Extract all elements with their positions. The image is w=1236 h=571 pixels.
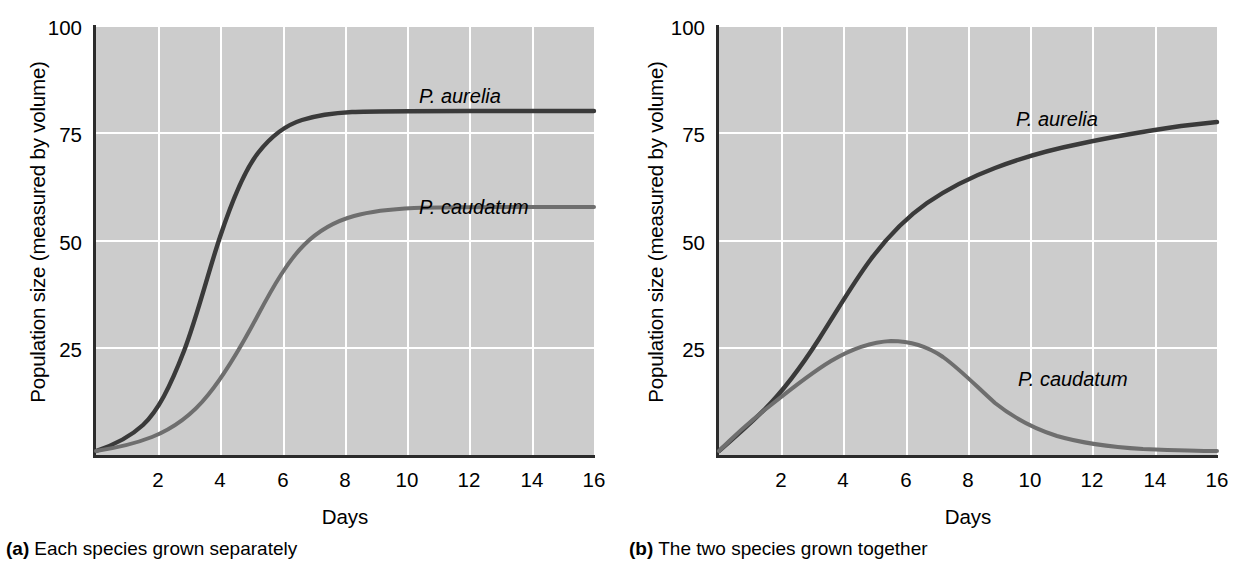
figure-competitive-exclusion: Population size (measured by volume) 100 <box>0 0 1236 571</box>
x-tick-2-a: 2 <box>138 470 178 491</box>
x-axis-line-b <box>716 455 1218 458</box>
curve-caudatum-b <box>719 341 1217 451</box>
caption-a-prefix: (a) <box>6 538 29 559</box>
y-axis-label-a: Population size (measured by volume) <box>26 2 56 462</box>
x-tick-8-a: 8 <box>325 470 365 491</box>
plot-area-a <box>96 25 594 455</box>
x-tick-10-b: 10 <box>1010 470 1050 491</box>
curves-a <box>96 25 594 455</box>
x-tick-6-b: 6 <box>886 470 926 491</box>
caption-b-text: The two species grown together <box>658 538 927 559</box>
curve-aurelia-a <box>96 111 594 451</box>
caption-b: (b)The two species grown together <box>629 538 928 560</box>
series-label-caudatum-a: P. caudatum <box>419 196 529 219</box>
y-tick-50-b: 50 <box>643 233 705 254</box>
curves-b <box>719 25 1217 455</box>
x-tick-12-b: 12 <box>1072 470 1112 491</box>
x-tick-14-b: 14 <box>1135 470 1175 491</box>
x-tick-12-a: 12 <box>449 470 489 491</box>
x-tick-16-b: 16 <box>1197 470 1236 491</box>
series-label-caudatum-b: P. caudatum <box>1018 368 1128 391</box>
x-axis-line-a <box>93 455 595 458</box>
x-tick-4-b: 4 <box>823 470 863 491</box>
plot-area-b <box>719 25 1217 455</box>
y-tick-50-a: 50 <box>20 233 82 254</box>
x-tick-6-a: 6 <box>263 470 303 491</box>
curve-aurelia-b <box>719 122 1217 451</box>
x-tick-8-b: 8 <box>948 470 988 491</box>
x-tick-10-a: 10 <box>387 470 427 491</box>
curve-caudatum-a <box>96 207 594 451</box>
y-tick-75-a: 75 <box>20 125 82 146</box>
panel-a: Population size (measured by volume) 100 <box>0 0 618 571</box>
y-axis-label-b: Population size (measured by volume) <box>644 2 674 462</box>
y-tick-100-a: 100 <box>20 18 82 39</box>
x-tick-16-a: 16 <box>574 470 614 491</box>
x-tick-2-b: 2 <box>761 470 801 491</box>
series-label-aurelia-a: P. aurelia <box>419 85 501 108</box>
x-axis-label-a: Days <box>96 505 594 529</box>
caption-a-text: Each species grown separately <box>34 538 297 559</box>
panel-b: Population size (measured by volume) 100 <box>618 0 1236 571</box>
y-tick-25-b: 25 <box>643 340 705 361</box>
y-tick-25-a: 25 <box>20 340 82 361</box>
x-tick-4-a: 4 <box>200 470 240 491</box>
caption-b-prefix: (b) <box>629 538 653 559</box>
y-tick-75-b: 75 <box>643 125 705 146</box>
series-label-aurelia-b: P. aurelia <box>1016 108 1098 131</box>
caption-a: (a)Each species grown separately <box>6 538 297 560</box>
x-tick-14-a: 14 <box>512 470 552 491</box>
y-tick-100-b: 100 <box>643 18 705 39</box>
x-axis-label-b: Days <box>719 505 1217 529</box>
